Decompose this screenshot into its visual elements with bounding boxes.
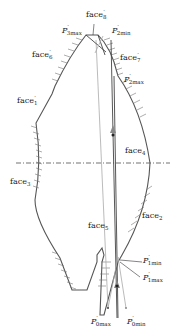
lens-outline (35, 35, 150, 315)
label-face2: face2 (142, 211, 162, 221)
label-p2max: P′2max (123, 73, 145, 85)
marker-p0min (125, 307, 127, 309)
hatch-inner-face5 (98, 262, 111, 286)
label-p3max: P′3max (61, 24, 83, 36)
ray-from-p0min (118, 257, 126, 308)
leader-face8p (93, 24, 94, 35)
label-face6-prime: face6′ (32, 49, 53, 60)
label-p1min: P′1min (142, 254, 162, 266)
leader-p1max (120, 262, 140, 277)
label-face4: face4 (125, 146, 146, 156)
label-p0max: P′0max (90, 315, 112, 327)
leader-p1min (120, 260, 142, 262)
label-p2min: P′2min (111, 24, 131, 36)
label-face5: face5 (88, 221, 109, 231)
marker-lower (115, 284, 118, 287)
label-face1-prime: face1′ (17, 95, 37, 106)
hatch-left-middle (31, 126, 42, 188)
label-p0min: P′0min (126, 315, 146, 327)
marker-upper (112, 134, 115, 137)
hatch-right-lower (128, 186, 152, 232)
face-ray-diagram: face8′ face6′ face7′ face1′ face4 face3 … (0, 0, 177, 336)
marker-p0max (107, 307, 109, 309)
label-p1max: P′1max (142, 271, 164, 283)
label-face7-prime: face7′ (120, 52, 141, 63)
label-face8-prime: face8′ (86, 9, 107, 20)
hatch-left-upper (52, 38, 82, 81)
label-face3: face3 (10, 177, 31, 187)
hatch-left-lower (52, 252, 76, 289)
